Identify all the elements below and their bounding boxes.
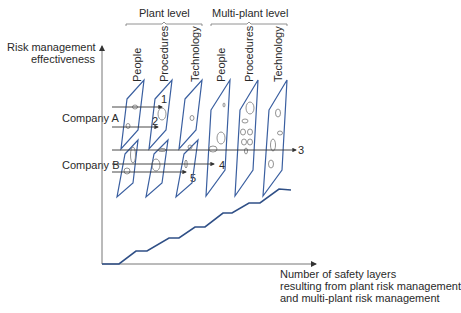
bracket-multi-plant-level [211, 22, 287, 26]
diagram-canvas [0, 0, 461, 313]
bracket-plant-level [126, 22, 202, 26]
axes [102, 46, 316, 264]
effectiveness-step-curve [102, 189, 291, 264]
slice-holes [124, 102, 283, 174]
safety-layer-slices [117, 80, 287, 197]
